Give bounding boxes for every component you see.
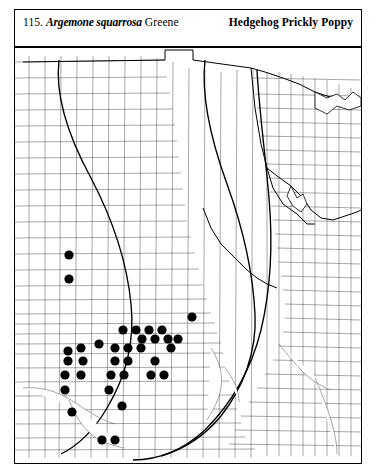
occurrence-dot	[67, 407, 76, 416]
map-frame	[14, 47, 362, 464]
occurrence-dot	[64, 250, 73, 259]
occurrence-dot	[63, 356, 72, 365]
header-band: 115. Argemone squarrosa Greene Hedgehog …	[14, 9, 362, 47]
occurrence-dot	[150, 356, 159, 365]
occurrence-dot	[64, 274, 73, 283]
occurrence-dot	[60, 385, 69, 394]
occurrence-dot	[76, 370, 85, 379]
occurrence-dot	[157, 325, 166, 334]
occurrence-dot	[136, 343, 145, 352]
occurrence-dot	[104, 385, 113, 394]
occurrence-dot	[119, 370, 128, 379]
occurrence-dot	[131, 325, 140, 334]
occurrence-dot	[144, 325, 153, 334]
occurrence-dot	[146, 370, 155, 379]
occurrence-dot	[118, 325, 127, 334]
occurrence-dot	[63, 346, 72, 355]
occurrence-dot	[123, 343, 132, 352]
species-binomial: Argemone squarrosa	[46, 16, 142, 28]
occurrence-dot	[110, 435, 119, 444]
occurrence-dot	[94, 339, 103, 348]
northern-state-outline	[23, 50, 361, 288]
species-title: 115. Argemone squarrosa Greene	[23, 16, 179, 29]
occurrence-dot	[117, 401, 126, 410]
common-name: Hedgehog Prickly Poppy	[229, 16, 353, 29]
occurrence-dot	[78, 356, 87, 365]
occurrence-dot	[187, 312, 196, 321]
occurrence-dot	[97, 435, 106, 444]
occurrence-dot	[106, 370, 115, 379]
occurrence-dot	[166, 343, 175, 352]
entry-number: 115.	[23, 16, 43, 28]
header-inner: 115. Argemone squarrosa Greene Hedgehog …	[15, 10, 361, 46]
species-authority: Greene	[145, 16, 179, 28]
occurrence-dot	[173, 334, 182, 343]
occurrence-dot	[137, 334, 146, 343]
occurrence-dot	[123, 356, 132, 365]
occurrence-dot	[159, 370, 168, 379]
occurrence-dot	[110, 356, 119, 365]
occurrence-dot	[76, 343, 85, 352]
occurrence-dot	[150, 334, 159, 343]
distribution-map-page: 115. Argemone squarrosa Greene Hedgehog …	[0, 0, 377, 475]
distribution-map	[15, 48, 361, 463]
occurrence-dot	[163, 334, 172, 343]
occurrence-dot	[60, 370, 69, 379]
occurrence-dot	[110, 343, 119, 352]
